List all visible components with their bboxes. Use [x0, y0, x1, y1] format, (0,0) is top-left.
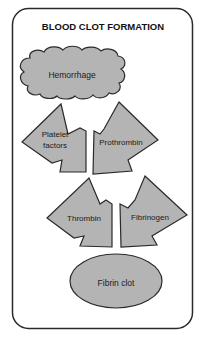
fibrin-clot-label: Fibrin clot [98, 278, 135, 288]
platelet-factors-label-line2: factors [43, 141, 67, 150]
hemorrhage-cloud: Hemorrhage [20, 46, 124, 99]
prothrombin-label: Prothrombin [99, 138, 143, 147]
blood-clot-diagram: BLOOD CLOT FORMATION Hemorrhage Platelet… [0, 0, 200, 337]
fibrin-clot-ellipse: Fibrin clot [70, 254, 162, 308]
diagram-title: BLOOD CLOT FORMATION [42, 21, 164, 32]
fibrinogen-label: Fibrinogen [131, 213, 169, 222]
hemorrhage-label: Hemorrhage [48, 70, 96, 80]
platelet-factors-label-line1: Platelet [42, 130, 69, 139]
thrombin-label: Thrombin [67, 214, 101, 223]
